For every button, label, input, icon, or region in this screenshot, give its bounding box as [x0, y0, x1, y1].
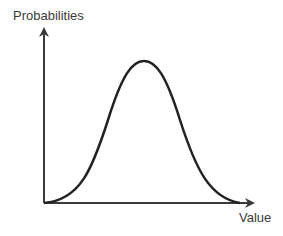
x-axis-label: Value: [239, 210, 271, 225]
diagram-canvas: [0, 0, 283, 236]
y-axis-label: Probabilities: [13, 8, 84, 23]
bell-curve: [44, 61, 240, 203]
